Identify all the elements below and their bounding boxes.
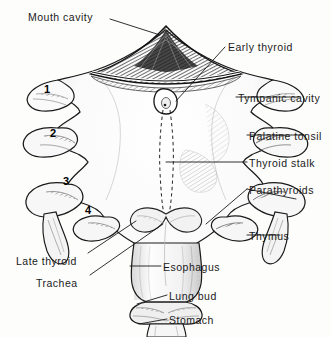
early-thyroid-diverticulum xyxy=(154,89,177,114)
label-lung-bud: Lung bud xyxy=(169,291,217,302)
label-late-thyroid: Late thyroid xyxy=(16,256,77,267)
label-trachea: Trachea xyxy=(36,278,78,289)
mouth-cavity-region xyxy=(91,26,241,92)
label-palatine-tonsil: Palatine tonsil xyxy=(249,131,322,142)
label-thyroid-stalk: Thyroid stalk xyxy=(249,158,315,169)
label-tympanic-cavity: Tympanic cavity xyxy=(238,93,320,104)
label-parathyroids: Parathyroids xyxy=(249,185,314,196)
pouch-number-2: 2 xyxy=(50,128,56,139)
leader-mouth-cavity xyxy=(110,19,160,35)
pouch-number-3: 3 xyxy=(63,176,69,187)
label-mouth-cavity: Mouth cavity xyxy=(28,12,93,23)
label-esophagus: Esophagus xyxy=(163,262,220,273)
label-thymus: Thymus xyxy=(249,231,289,242)
pharyngeal-pouch-diagram: Mouth cavity Early thyroid Tympanic cavi… xyxy=(0,0,331,337)
pouch-number-4: 4 xyxy=(85,205,91,216)
label-stomach: Stomach xyxy=(169,315,214,326)
label-early-thyroid: Early thyroid xyxy=(228,42,293,53)
pouch-number-1: 1 xyxy=(44,84,50,95)
